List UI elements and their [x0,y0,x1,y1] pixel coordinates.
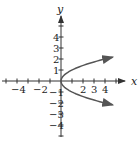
x-tick-label: −4 [11,84,26,95]
x-tick-label: 4 [102,84,108,95]
x-axis-label: x [131,75,138,88]
y-tick-label: −2 [49,98,64,109]
y-tick-label: −1 [49,87,64,98]
parabola-graph: x y −4−22344321−1−2−3−4 [0,0,138,142]
y-tick-label: −3 [49,109,64,120]
y-tick-label: 3 [53,43,59,54]
y-tick-label: 1 [53,65,59,76]
y-tick-label: 4 [53,32,59,43]
x-tick-label: −2 [33,84,48,95]
y-tick-label: −4 [49,120,64,131]
y-tick-label: 2 [53,54,59,65]
y-axis-label: y [56,3,64,16]
x-tick-label: 3 [91,84,97,95]
x-tick-label: 2 [80,84,86,95]
